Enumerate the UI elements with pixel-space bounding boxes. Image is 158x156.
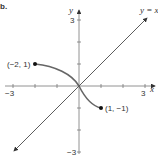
figure-label: b.	[0, 2, 7, 11]
point-1-neg1	[99, 106, 103, 110]
x-tick-neg3: −3	[5, 89, 15, 98]
line-y-equals-x-neg	[14, 86, 79, 151]
y-axis-label: y	[68, 5, 73, 15]
y-tick-neg3: −3	[67, 148, 77, 156]
x-axis-label: x	[149, 84, 154, 94]
line-label: y = x	[139, 5, 158, 15]
y-tick-3: 3	[70, 16, 75, 25]
line-y-equals-x	[79, 18, 147, 86]
point-label-1: (−2, 1)	[7, 60, 31, 69]
point-neg2-1	[33, 62, 37, 66]
x-tick-3: 3	[141, 89, 146, 98]
point-label-2: (1, −1)	[105, 104, 129, 113]
graph: b. y x y = x 3 −3 −3 3 (−2, 1) (1, −1)	[0, 0, 158, 156]
